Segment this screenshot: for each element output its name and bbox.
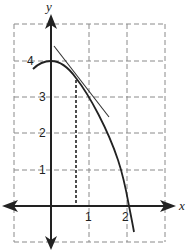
x-axis-label: x [178,198,185,213]
y-tick-4: 4 [27,54,34,68]
function-graph: y x 4 3 2 1 1 2 [0,0,187,250]
x-tick-2: 2 [122,210,129,224]
x-tick-1: 1 [85,210,92,224]
y-axis [45,14,57,250]
tangent-line [54,46,109,117]
y-tick-3: 3 [39,90,46,104]
y-tick-1: 1 [39,163,46,177]
y-tick-2: 2 [39,126,46,140]
y-axis-label: y [44,0,52,14]
